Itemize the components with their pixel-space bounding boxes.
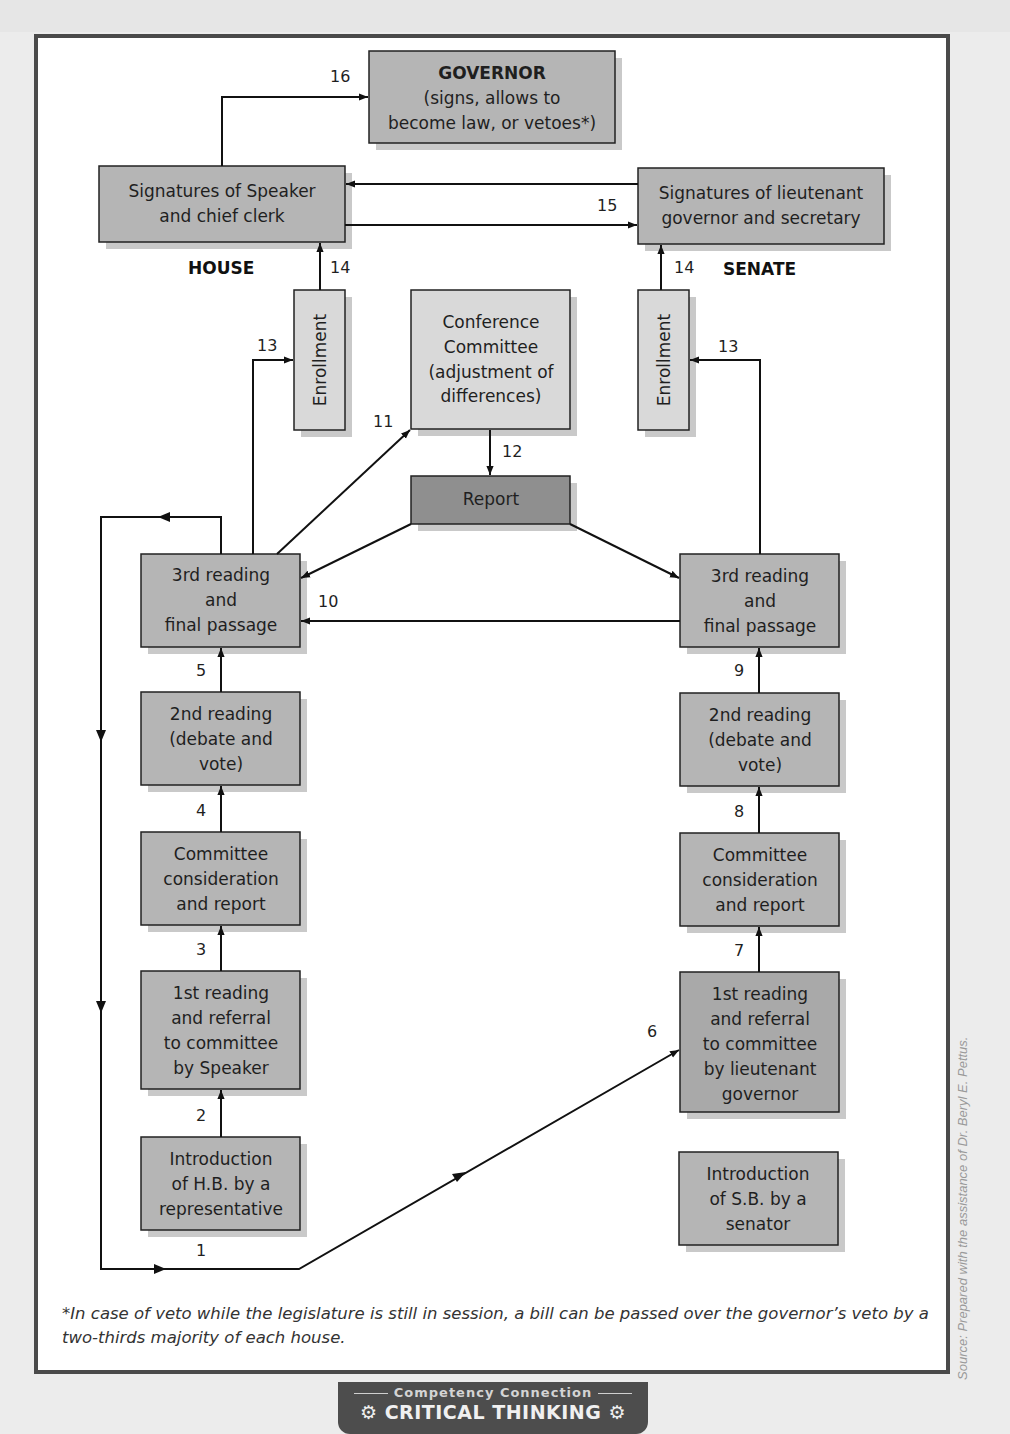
senate-enrollment-box: Enrollment [638,290,696,437]
box-line: 3rd reading [711,566,809,586]
box-line: 2nd reading [170,704,272,724]
step-label-13-house: 13 [257,336,277,355]
box-line: Enrollment [310,313,330,406]
house-signatures-box: Signatures of Speaker and chief clerk [99,166,352,249]
box-line: and report [715,895,805,915]
box-line: consideration [163,869,278,889]
step-label-6: 6 [647,1022,657,1041]
box-line: 1st reading [712,984,808,1004]
box-line: Report [463,489,520,509]
house-label: HOUSE [188,258,254,278]
senate-introduction-box: Introduction of S.B. by a senator [679,1152,845,1252]
step-label-1: 1 [196,1241,206,1260]
box-line: Enrollment [654,313,674,406]
box-line: to committee [164,1033,278,1053]
box-line: Introduction [170,1149,273,1169]
senate-second-reading-box: 2nd reading (debate and vote) [680,693,846,793]
box-line: to committee [703,1034,817,1054]
step-label-10: 10 [318,592,338,611]
senate-first-reading-box: 1st reading and referral to committee by… [680,972,846,1119]
source-credit: Source: Prepared with the assistance of … [955,980,975,1380]
box-line: senator [726,1214,791,1234]
gear-icon: ⚙ [360,1401,378,1423]
arrow-13-house [253,360,293,554]
step-label-3: 3 [196,940,206,959]
arrow-report-house [301,524,411,578]
arrow-report-senate [570,524,679,578]
box-line: differences) [441,386,542,406]
house-committee-box: Committee consideration and report [141,832,307,932]
box-line: Committee [174,844,268,864]
box-line: Signatures of Speaker [128,181,315,201]
step-label-13-senate: 13 [718,337,738,356]
box-line: vote) [199,754,243,774]
step-label-8: 8 [734,802,744,821]
box-line: and referral [710,1009,810,1029]
step-label-7: 7 [734,941,744,960]
conference-committee-box: Conference Committee (adjustment of diff… [411,290,577,436]
box-line: Introduction [707,1164,810,1184]
box-line: and [744,591,776,611]
arrow-11 [277,430,410,554]
box-line: of H.B. by a [172,1174,271,1194]
box-line: Conference [442,312,539,332]
arrow-16 [222,97,368,166]
box-line: and [205,590,237,610]
box-line: (adjustment of [428,362,554,382]
step-label-15: 15 [597,196,617,215]
legislative-process-flowchart: GOVERNOR (signs, allows to become law, o… [0,0,1010,1434]
box-line: governor and secretary [661,208,860,228]
box-line: representative [159,1199,283,1219]
box-line: final passage [704,616,817,636]
box-line: vote) [738,755,782,775]
box-line: and report [176,894,266,914]
footnote: *In case of veto while the legislature i… [62,1302,932,1350]
badge-subtitle: Competency Connection [338,1385,648,1400]
governor-box: GOVERNOR (signs, allows to become law, o… [369,51,622,150]
box-line: and chief clerk [159,206,285,226]
box-line: consideration [702,870,817,890]
box-line: final passage [165,615,278,635]
box-line: by Speaker [173,1058,268,1078]
step-label-14-senate: 14 [674,258,694,277]
box-line: by lieutenant [704,1059,817,1079]
report-box: Report [411,476,577,531]
box-line: Signatures of lieutenant [659,183,864,203]
badge-title: CRITICAL THINKING [385,1401,602,1423]
governor-line: (signs, allows to [424,88,561,108]
badge-title-row: ⚙ CRITICAL THINKING ⚙ [338,1401,648,1423]
step-label-5: 5 [196,661,206,680]
house-third-reading-box: 3rd reading and final passage [141,554,307,654]
governor-title: GOVERNOR [438,63,546,83]
step-label-12: 12 [502,442,522,461]
competency-badge: Competency Connection ⚙ CRITICAL THINKIN… [338,1382,648,1434]
step-label-16: 16 [330,67,350,86]
house-first-reading-box: 1st reading and referral to committee by… [141,971,307,1096]
arrow-13-senate [690,360,760,554]
box-line: 1st reading [173,983,269,1003]
house-enrollment-box: Enrollment [294,290,352,437]
governor-line: become law, or vetoes*) [388,113,596,133]
senate-signatures-box: Signatures of lieutenant governor and se… [638,168,891,251]
step-label-2: 2 [196,1106,206,1125]
senate-committee-box: Committee consideration and report [680,833,846,933]
step-label-14-house: 14 [330,258,350,277]
house-second-reading-box: 2nd reading (debate and vote) [141,692,307,792]
box-line: Committee [444,337,538,357]
gear-icon: ⚙ [608,1401,626,1423]
step-label-9: 9 [734,661,744,680]
box-line: of S.B. by a [709,1189,806,1209]
box-line: (debate and [708,730,812,750]
house-introduction-box: Introduction of H.B. by a representative [141,1137,307,1237]
step-label-11: 11 [373,412,393,431]
box-line: Committee [713,845,807,865]
step-label-4: 4 [196,801,206,820]
box-line: (debate and [169,729,273,749]
box-line: and referral [171,1008,271,1028]
senate-third-reading-box: 3rd reading and final passage [680,554,846,654]
senate-label: SENATE [723,259,796,279]
box-line: governor [722,1084,799,1104]
box-line: 3rd reading [172,565,270,585]
box-line: 2nd reading [709,705,811,725]
